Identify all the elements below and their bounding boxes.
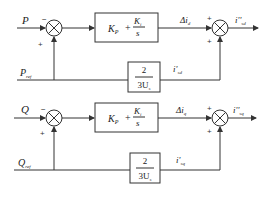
gain-numerator: 2 <box>143 156 148 166</box>
loop-d-axis: P − + KP + Ki s Δid + + i''sd <box>17 13 258 92</box>
plus-op: + <box>125 112 131 123</box>
svg-text:Δid: Δid <box>179 15 191 26</box>
plus-sign: + <box>207 104 212 113</box>
minus-sign: − <box>42 15 47 24</box>
plus-sign: + <box>207 127 212 136</box>
summing-junction-left <box>46 20 62 36</box>
plus-sign: + <box>207 14 212 23</box>
svg-text:i''sq: i''sq <box>233 105 244 116</box>
gain-denominator: 3U <box>138 80 150 90</box>
svg-text:i'sd: i'sd <box>173 64 182 75</box>
svg-text:Pref: Pref <box>19 67 32 79</box>
svg-text:i'sq: i'sq <box>176 155 185 166</box>
plus-sign: + <box>38 40 43 49</box>
input-q-label: Q <box>21 103 29 115</box>
pi-controller-block: KP + Ki s <box>95 13 158 42</box>
feedforward-gain-block: 2 3Us <box>130 153 160 183</box>
gain-denominator: 3U <box>139 171 151 181</box>
feedforward-gain-block: 2 3Us <box>128 62 160 92</box>
summing-junction-left <box>46 110 62 126</box>
kp-sub: P <box>114 29 119 35</box>
summing-junction-right <box>212 110 228 126</box>
plus-sign: + <box>40 129 45 138</box>
pi-controller-block: KP + Ki s <box>95 103 158 132</box>
svg-text:Δiq: Δiq <box>175 105 187 116</box>
block-diagram: P − + KP + Ki s Δid + + i''sd <box>0 0 271 199</box>
svg-text:i''sd: i''sd <box>235 15 246 26</box>
plus-op: + <box>125 22 131 33</box>
p-ref-label: P <box>19 67 26 78</box>
plus-sign: + <box>207 37 212 46</box>
s-symbol: s <box>136 118 140 128</box>
summing-junction-right <box>212 20 228 36</box>
minus-sign: − <box>41 105 46 114</box>
s-symbol: s <box>136 28 140 38</box>
gain-numerator: 2 <box>142 65 147 75</box>
loop-q-axis: Q − + KP + Ki s Δiq + + i''sq Qref <box>14 103 256 183</box>
svg-text:Qref: Qref <box>18 157 31 169</box>
input-p-label: P <box>21 14 29 26</box>
